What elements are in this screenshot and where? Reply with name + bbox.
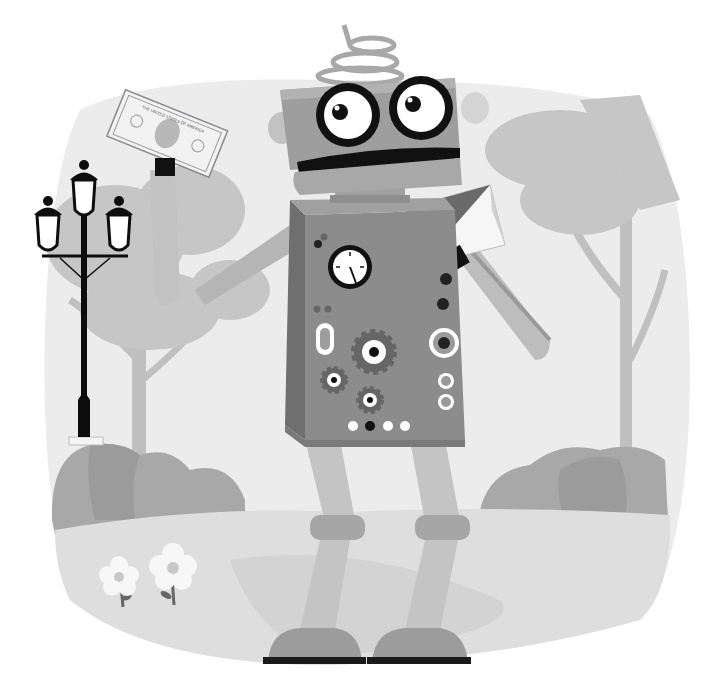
- right-eye: [389, 76, 453, 140]
- robot-head: [268, 25, 489, 195]
- gear-small-left: [322, 368, 346, 392]
- robot-park-illustration: THE UNITED STATES OF AMERICA: [0, 0, 702, 696]
- left-eye: [316, 83, 380, 147]
- lamp-pole: [81, 205, 87, 405]
- right-tree-trunk: [620, 200, 632, 460]
- right-ear: [461, 92, 489, 124]
- robot-torso: [285, 198, 465, 447]
- gear-large: [354, 332, 394, 372]
- left-bush-shade: [88, 444, 140, 520]
- gauge: [328, 245, 372, 289]
- lamp-base-plate: [69, 437, 103, 445]
- robot-right-sole: [367, 657, 471, 664]
- antenna-spring: [318, 25, 402, 84]
- robot-left-sole: [263, 657, 366, 664]
- gear-small-bottom: [358, 388, 382, 412]
